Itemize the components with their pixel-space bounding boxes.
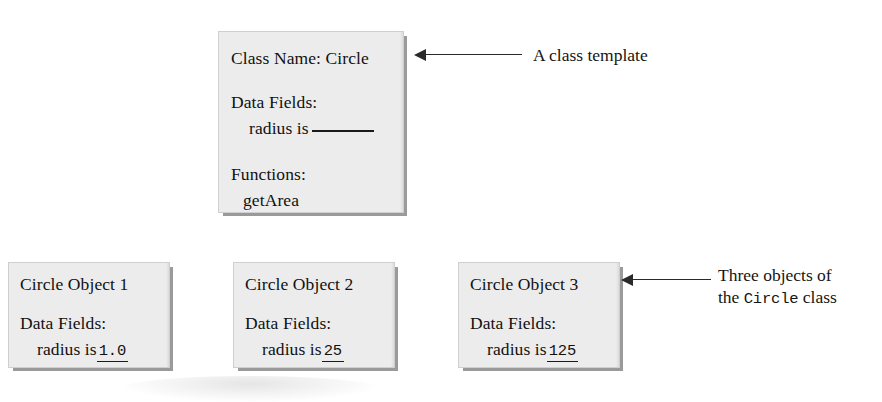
object-1-data-fields-heading: Data Fields: <box>20 315 106 333</box>
object-1-title: Circle Object 1 <box>20 276 128 294</box>
annotation-objects-line2-suffix: class <box>798 287 836 307</box>
class-template-functions-heading: Functions: <box>231 166 306 184</box>
arrow-shaft <box>423 54 522 55</box>
class-template-data-fields-heading: Data Fields: <box>231 94 317 112</box>
annotation-objects-class-name: Circle <box>744 290 799 308</box>
object-2-title: Circle Object 2 <box>245 276 353 294</box>
object-2-radius-value: 25 <box>322 344 344 362</box>
object-1-radius-label: radius is <box>37 339 97 359</box>
class-template-radius-row: radius is <box>249 120 374 138</box>
object-3-radius-label: radius is <box>487 339 547 359</box>
annotation-label-template: A class template <box>533 44 648 66</box>
object-box-1: Circle Object 1 Data Fields: radius is1.… <box>8 262 170 368</box>
scan-smudge-artifact <box>120 376 380 402</box>
object-1-radius-row: radius is1.0 <box>37 341 128 362</box>
annotation-arrow-objects <box>621 273 711 287</box>
object-2-data-fields-heading: Data Fields: <box>245 315 331 333</box>
arrow-shaft <box>630 279 711 280</box>
class-template-box: Class Name: Circle Data Fields: radius i… <box>218 31 404 213</box>
annotation-label-objects: Three objects of the Circle class <box>718 264 837 310</box>
annotation-objects-line-2: the Circle class <box>718 286 837 310</box>
object-2-radius-label: radius is <box>262 339 322 359</box>
class-template-radius-blank <box>312 130 374 132</box>
annotation-objects-line-1: Three objects of <box>718 264 837 286</box>
object-3-radius-row: radius is125 <box>487 341 578 362</box>
object-1-radius-value: 1.0 <box>97 344 128 362</box>
annotation-arrow-template <box>414 48 522 62</box>
object-box-3: Circle Object 3 Data Fields: radius is12… <box>458 262 620 368</box>
object-3-radius-value: 125 <box>547 344 578 362</box>
annotation-objects-line2-prefix: the <box>718 287 744 307</box>
object-2-radius-row: radius is25 <box>262 341 344 362</box>
object-3-data-fields-heading: Data Fields: <box>470 315 556 333</box>
object-box-2: Circle Object 2 Data Fields: radius is25 <box>233 262 395 368</box>
object-3-title: Circle Object 3 <box>470 276 578 294</box>
class-template-radius-label: radius is <box>249 118 309 138</box>
class-name-line: Class Name: Circle <box>231 50 369 68</box>
class-template-function-name: getArea <box>243 192 299 210</box>
